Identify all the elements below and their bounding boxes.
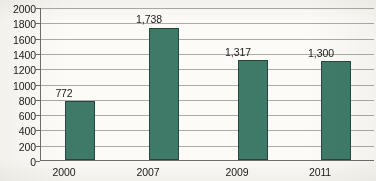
- gridline: [41, 23, 374, 24]
- x-axis-label-2009: 2009: [222, 167, 252, 178]
- bar-value-2011: 1,300: [303, 48, 339, 59]
- y-axis-label-1800: 1800: [0, 19, 36, 30]
- y-axis-label-0: 0: [0, 157, 36, 168]
- plot-area: [40, 8, 374, 161]
- bar-2000: [65, 101, 95, 160]
- y-axis: 2000 1800 1600 1400 1200 1000 800 600 40…: [0, 0, 36, 181]
- bar-2011: [321, 61, 351, 160]
- x-axis-label-2000: 2000: [49, 167, 79, 178]
- gridline: [41, 39, 374, 40]
- bar-2007: [149, 28, 179, 160]
- bar-value-2007: 1,738: [131, 14, 167, 25]
- y-axis-label-1200: 1200: [0, 65, 36, 76]
- y-axis-label-200: 200: [0, 142, 36, 153]
- bar-chart: 2000 1800 1600 1400 1200 1000 800 600 40…: [0, 0, 376, 181]
- y-axis-label-2000: 2000: [0, 4, 36, 15]
- bar-2009: [238, 60, 268, 160]
- bar-value-2009: 1,317: [220, 47, 256, 58]
- y-axis-tick: [36, 161, 40, 162]
- bar-value-2000: 772: [49, 88, 79, 99]
- y-axis-label-1000: 1000: [0, 81, 36, 92]
- y-axis-label-600: 600: [0, 111, 36, 122]
- gridline: [41, 8, 374, 9]
- y-axis-label-1400: 1400: [0, 50, 36, 61]
- x-axis-label-2007: 2007: [133, 167, 163, 178]
- y-axis-label-1600: 1600: [0, 35, 36, 46]
- x-axis-label-2011: 2011: [305, 167, 335, 178]
- y-axis-label-800: 800: [0, 96, 36, 107]
- y-axis-label-400: 400: [0, 126, 36, 137]
